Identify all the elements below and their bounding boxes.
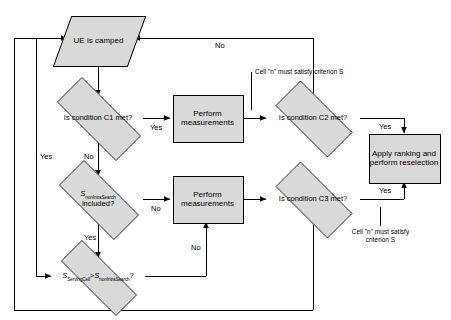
edge-label-c2-no: No xyxy=(215,41,225,50)
apply-ranking-reselection-shape xyxy=(369,134,441,184)
node-apply-ranking-reselection[interactable]: Apply ranking and perform reselection xyxy=(369,134,439,182)
node-condition-c1[interactable]: Is condition C1 met? xyxy=(40,94,156,142)
node-ue-camped[interactable]: UE is camped xyxy=(62,16,135,65)
node-s-nonintrasearch-included[interactable]: SnonIntraSearch included? xyxy=(44,175,152,223)
edge-label-scompare-yes-left: Yes xyxy=(40,152,52,161)
edge-label-scompare-no: No xyxy=(191,243,201,252)
edge-label-c2-yes: Yes xyxy=(379,122,391,131)
edge-label-sincluded-yes: Yes xyxy=(84,233,96,242)
annotation-note-c3: Cell "n" must satisfy criterion S xyxy=(343,228,418,245)
node-condition-c2[interactable]: Is condition C2 met? xyxy=(262,94,364,142)
node-s-compare[interactable]: SServingCell>SnonIntraSearch? xyxy=(44,257,152,297)
perform-measurements-1-shape xyxy=(173,95,244,143)
annotation-note-c2-text: Cell "n" must satisfy criterion S xyxy=(255,68,343,75)
node-condition-c3[interactable]: Is condition C3 met? xyxy=(262,175,364,223)
edge-label-c1-no: No xyxy=(84,152,94,161)
s-compare-var-a: S xyxy=(62,271,67,280)
perform-measurements-2-shape xyxy=(173,176,244,224)
node-perform-measurements-1[interactable]: Perform measurements xyxy=(173,95,242,141)
edge-label-c3-yes: Yes xyxy=(379,186,391,195)
flowchart-canvas: UE is camped Is condition C1 met? Perfor… xyxy=(0,0,451,320)
edge-label-sincluded-no: No xyxy=(151,204,161,213)
node-perform-measurements-2[interactable]: Perform measurements xyxy=(173,176,242,222)
s-compare-suffix: ? xyxy=(130,271,134,280)
annotation-note-c2: Cell "n" must satisfy criterion S xyxy=(255,68,343,76)
edge-label-c1-yes: Yes xyxy=(150,123,162,132)
ue-camped-shape xyxy=(53,16,147,67)
annotation-note-c3-text: Cell "n" must satisfy criterion S xyxy=(352,228,409,243)
